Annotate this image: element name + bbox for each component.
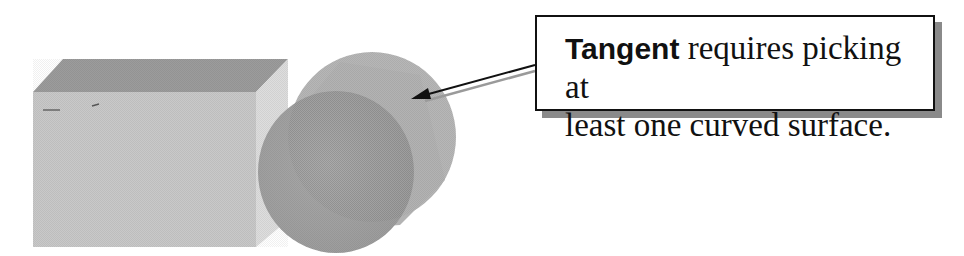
callout-text-line2: least one curved surface. xyxy=(565,107,891,143)
callout-box: Tangent requires picking at least one cu… xyxy=(535,15,935,111)
callout-keyword: Tangent xyxy=(565,32,679,65)
block-shape xyxy=(33,59,288,247)
